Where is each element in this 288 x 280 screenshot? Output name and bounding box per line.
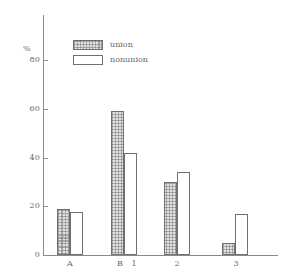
x-tick-label-3: 3 xyxy=(226,259,246,268)
legend-label-union: union xyxy=(110,40,133,49)
x-tick-label-2: 2 xyxy=(167,259,187,268)
legend-item-nonunion: nonunion xyxy=(73,53,148,66)
y-tick-mark-20 xyxy=(43,206,48,207)
x-axis-line xyxy=(43,255,278,256)
bar-union-3 xyxy=(222,243,235,255)
legend-swatch-union-icon xyxy=(73,40,103,50)
bar-union-2 xyxy=(164,182,177,255)
chart-legend: union nonunion xyxy=(73,38,148,68)
y-tick-label-40: 40 xyxy=(0,154,40,162)
bar-nonunion-2 xyxy=(177,172,190,255)
y-tick-label-60: 60 xyxy=(0,105,40,113)
bar-nonunion-3 xyxy=(235,214,248,255)
legend-swatch-nonunion-icon xyxy=(73,55,103,65)
legend-item-union: union xyxy=(73,38,148,51)
y-axis-line xyxy=(43,15,44,256)
bar-chart: % 80 60 40 20 0 A B 1 2 3 union nonunion xyxy=(0,0,288,280)
y-tick-mark-80 xyxy=(43,60,48,61)
y-tick-mark-0 xyxy=(43,255,48,256)
y-axis-unit-label: % xyxy=(23,45,31,53)
x-tick-label-a: A xyxy=(60,259,80,268)
y-tick-label-20: 20 xyxy=(0,202,40,210)
bar-nonunion-a xyxy=(70,212,83,255)
bar-nonunion-b xyxy=(124,153,137,255)
y-tick-label-0: 0 xyxy=(0,251,40,259)
bar-union-b xyxy=(111,111,124,255)
y-tick-label-80: 80 xyxy=(0,56,40,64)
y-tick-mark-60 xyxy=(43,109,48,110)
x-tick-label-1: 1 xyxy=(124,259,144,268)
y-tick-mark-40 xyxy=(43,158,48,159)
legend-label-nonunion: nonunion xyxy=(110,55,148,64)
bar-union-a xyxy=(57,209,70,255)
